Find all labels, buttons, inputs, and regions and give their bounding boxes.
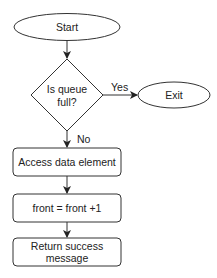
return-node: Return success message [13,238,121,266]
decision-node: Is queue full? [31,59,103,131]
increment-node: front = front +1 [13,194,121,222]
return-label-line1: Return success [31,240,103,252]
decision-label-line1: Is queue [47,83,87,95]
access-node: Access data element [13,148,121,176]
decision-label-line2: full? [57,96,76,108]
increment-label: front = front +1 [33,202,102,214]
exit-node: Exit [138,82,210,108]
yes-label: Yes [111,81,128,93]
start-label: Start [56,21,78,33]
return-label-line2: message [46,252,89,264]
access-label: Access data element [18,156,116,168]
no-label: No [77,133,91,145]
flowchart: Start Is queue full? Yes Exit No Access … [0,0,217,278]
start-node: Start [14,14,120,41]
exit-label: Exit [165,89,183,101]
